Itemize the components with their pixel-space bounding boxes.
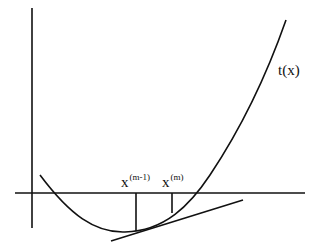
function-label: t(x) bbox=[278, 61, 300, 79]
x-prev-label: x(m-1) bbox=[121, 173, 150, 191]
function-curve bbox=[40, 20, 286, 232]
x-curr-label: x(m) bbox=[162, 173, 184, 191]
tangent-line bbox=[111, 200, 243, 241]
diagram-svg bbox=[0, 0, 322, 251]
diagram-canvas: t(x) x(m-1) x(m) bbox=[0, 0, 322, 251]
